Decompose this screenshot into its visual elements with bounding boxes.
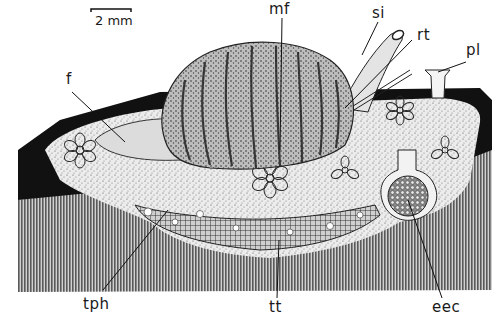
illustration: 2 mm mf si rt pl f tph tt eec: [0, 0, 492, 331]
label-mf: mf: [269, 2, 290, 17]
snail-shell: [162, 42, 353, 169]
label-si: si: [372, 6, 385, 21]
scale-bar-label: 2 mm: [95, 14, 133, 27]
label-pl: pl: [466, 43, 481, 58]
label-tt: tt: [269, 300, 282, 315]
label-rt: rt: [417, 28, 430, 43]
scale-bar: [91, 9, 131, 12]
label-tph: tph: [83, 297, 109, 312]
label-eec: eec: [432, 300, 460, 315]
snail-cross-section-drawing: [0, 0, 492, 331]
label-f: f: [66, 72, 72, 87]
